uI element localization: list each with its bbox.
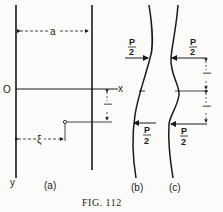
width-label: a bbox=[50, 26, 56, 37]
figure-caption: FIG. 112 bbox=[82, 197, 122, 208]
dim-lower-c-label: l bbox=[201, 105, 212, 107]
deflected-plate-b bbox=[133, 5, 152, 178]
panel-b: P 2 P 2 (b) bbox=[125, 5, 156, 193]
panel-b-label: (b) bbox=[131, 182, 143, 193]
y-axis-label: y bbox=[10, 177, 15, 188]
force-top-b-den: 2 bbox=[129, 47, 134, 57]
force-top-c-num: P bbox=[190, 37, 196, 47]
panel-a: O x y a l ξ (a) bbox=[3, 5, 123, 191]
eta-label: l bbox=[102, 103, 113, 105]
panel-c: P 2 P 2 l l (c) bbox=[169, 5, 212, 193]
force-bottom-c-num: P bbox=[181, 126, 187, 136]
x-axis-label: x bbox=[118, 83, 123, 94]
panel-a-label: (a) bbox=[44, 180, 56, 191]
load-point bbox=[63, 120, 66, 123]
figure-112: O x y a l ξ (a) P 2 P 2 (b) bbox=[0, 0, 223, 212]
xi-label: ξ bbox=[37, 134, 42, 146]
dim-upper-c-label: l bbox=[201, 72, 212, 74]
force-bottom-b-num: P bbox=[144, 125, 150, 135]
force-bottom-c-den: 2 bbox=[181, 137, 186, 147]
origin-label: O bbox=[3, 84, 11, 95]
force-top-c-den: 2 bbox=[190, 47, 195, 57]
deflected-plate-c bbox=[169, 5, 179, 178]
force-top-b-num: P bbox=[129, 37, 135, 47]
force-bottom-b-den: 2 bbox=[144, 136, 149, 146]
panel-c-label: (c) bbox=[169, 182, 181, 193]
